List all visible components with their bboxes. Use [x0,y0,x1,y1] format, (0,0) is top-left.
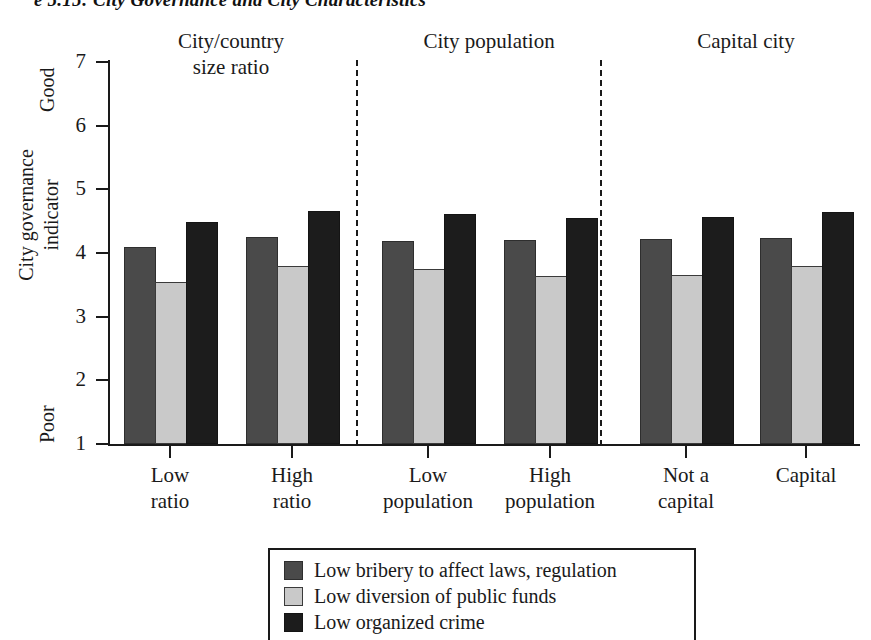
y-tick-label: 4 [60,242,86,263]
bar-low-population-series-1 [413,269,445,444]
group-header-line: Capital city [636,28,856,54]
x-tick-mark [291,446,293,458]
y-tick-label: 7 [60,51,86,72]
y-tick-label: 6 [60,115,86,136]
bar-low-ratio-series-2 [186,222,218,444]
bar-high-population-series-1 [535,276,567,444]
bar-not-a-capital-series-0 [640,239,672,444]
x-tick-mark [169,446,171,458]
x-tick-mark [549,446,551,458]
y-axis-ticks: 1234567 [0,0,110,635]
bar-low-ratio-series-0 [124,247,156,444]
legend-item-1: Low diversion of public funds [284,583,694,609]
bar-capital-series-1 [791,266,823,444]
y-tick-label: 1 [60,433,86,454]
x-axis-label-line: population [475,488,625,514]
group-header-3: Capital city [636,28,856,54]
bar-high-ratio-series-0 [246,237,278,444]
y-tick-label: 2 [60,369,86,390]
legend-item-label: Low diversion of public funds [314,584,556,608]
x-axis-label-line: Capital [731,462,871,488]
y-tick-label: 5 [60,178,86,199]
bars-layer [108,62,860,444]
legend-item-label: Low bribery to affect laws, regulation [314,558,617,582]
bar-high-population-series-0 [504,240,536,444]
series-2-swatch [284,613,303,632]
bar-capital-series-2 [822,212,854,444]
x-axis-label-capital: Capital [731,462,871,488]
x-axis-label-high-population: Highpopulation [475,462,625,514]
bar-high-ratio-series-1 [277,266,309,444]
group-header-2: City population [379,28,599,54]
x-axis-label-line: High [475,462,625,488]
x-axis-label-high-ratio: Highratio [217,462,367,514]
x-axis-line [108,444,860,446]
series-0-swatch [284,561,303,580]
legend-item-label: Low organized crime [314,610,485,634]
bar-high-population-series-2 [566,218,598,444]
bar-low-ratio-series-1 [155,282,187,444]
x-axis-label-line: High [217,462,367,488]
y-tick-label: 3 [60,306,86,327]
group-header-line: City population [379,28,599,54]
x-axis-label-line: capital [611,488,761,514]
series-1-swatch [284,587,303,606]
x-tick-mark [685,446,687,458]
bar-not-a-capital-series-1 [671,275,703,444]
bar-low-population-series-2 [444,214,476,444]
legend: Low bribery to affect laws, regulationLo… [268,548,696,640]
bar-not-a-capital-series-2 [702,217,734,444]
group-header-line: City/country [121,28,341,54]
x-tick-mark [427,446,429,458]
bar-low-population-series-0 [382,241,414,444]
x-axis-label-line: ratio [217,488,367,514]
bar-capital-series-0 [760,238,792,444]
legend-item-0: Low bribery to affect laws, regulation [284,557,694,583]
legend-item-2: Low organized crime [284,609,694,635]
bar-high-ratio-series-2 [308,211,340,444]
x-tick-mark [805,446,807,458]
